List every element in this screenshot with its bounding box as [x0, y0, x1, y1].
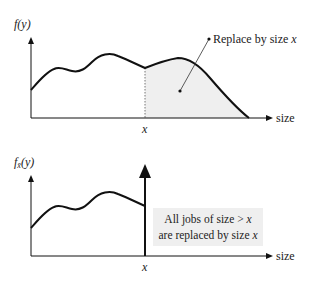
top-x-label: size: [276, 111, 295, 125]
replacement-note-box: All jobs of size > x are replaced by siz…: [153, 208, 263, 246]
shaded-tail-region: [145, 58, 249, 118]
top-y-label: f(y): [14, 17, 31, 31]
note-line-2: are replaced by size x: [153, 227, 263, 243]
bottom-x-label: size: [276, 249, 295, 263]
top-plot: [31, 37, 270, 118]
annotation-dot: [178, 89, 181, 92]
top-x-tick: x: [141, 122, 148, 136]
annotation-dot: [207, 37, 210, 40]
bottom-y-label: fx̄(y): [14, 155, 34, 170]
annotation-label: Replace by size x: [213, 32, 297, 46]
note-line-1: All jobs of size > x: [153, 211, 263, 227]
truncated-density-curve: [31, 192, 145, 228]
bottom-x-tick: x: [141, 260, 148, 274]
